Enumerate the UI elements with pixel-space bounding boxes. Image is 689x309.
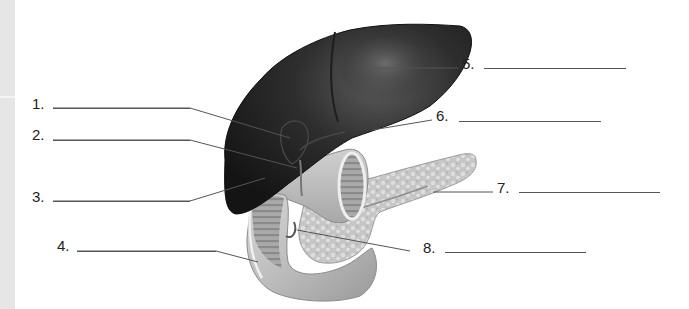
label-4-answer-line[interactable] [77, 251, 216, 252]
label-6-number: 6. [436, 108, 449, 123]
label-2-number: 2. [32, 127, 45, 142]
label-3-number: 3. [32, 189, 45, 204]
label-2-answer-line[interactable] [53, 140, 190, 141]
label-1-number: 1. [32, 96, 45, 111]
label-4-number: 4. [57, 238, 70, 253]
label-7-answer-line[interactable] [519, 192, 660, 193]
label-8-number: 8. [423, 240, 436, 255]
label-3-answer-line[interactable] [53, 201, 190, 202]
label-6-answer-line[interactable] [459, 121, 601, 122]
label-8-answer-line[interactable] [445, 252, 586, 253]
label-1-answer-line[interactable] [53, 108, 190, 109]
label-5-answer-line[interactable] [484, 68, 626, 69]
label-5-number: 5. [462, 56, 475, 71]
anatomy-illustration [0, 0, 689, 309]
label-7-number: 7. [497, 180, 510, 195]
